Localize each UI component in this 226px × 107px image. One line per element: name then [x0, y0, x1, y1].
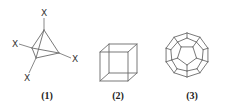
cube-figure	[100, 44, 137, 81]
mid-edge	[178, 38, 187, 42]
inner-edge	[177, 47, 181, 58]
outer-edge	[166, 37, 174, 48]
caption-2: (2)	[112, 90, 124, 102]
outer-edge	[200, 37, 208, 48]
spoke-edge	[196, 37, 200, 42]
tetrahedron-figure: X X X X	[12, 8, 78, 83]
outer-edge	[174, 33, 187, 37]
edge	[44, 30, 59, 53]
spoke-edge	[202, 60, 208, 62]
substituent-label-right: X	[72, 54, 78, 64]
edge	[128, 73, 137, 81]
mid-edge	[177, 69, 187, 71]
spoke-edge	[174, 69, 177, 73]
bond-right	[59, 53, 71, 58]
bond-bottom	[29, 58, 36, 73]
polyhedra-diagram: X X X X (1) (2) (3)	[0, 0, 226, 107]
inner-edge	[177, 58, 187, 65]
bond-left	[19, 44, 32, 48]
mid-edge	[171, 42, 178, 50]
caption-3: (3)	[186, 90, 198, 102]
spoke-edge	[166, 48, 171, 50]
edge	[32, 30, 44, 48]
edge	[36, 30, 44, 58]
inner-spoke	[197, 58, 203, 60]
outer-edge	[174, 73, 187, 77]
edge	[128, 44, 137, 52]
cube-front-face	[100, 52, 128, 81]
edge-back	[32, 48, 59, 53]
mid-edge	[172, 60, 177, 69]
inner-edge	[187, 58, 197, 65]
outer-edge	[166, 62, 174, 73]
edge	[100, 73, 109, 81]
spoke-edge	[174, 37, 178, 42]
mid-edge	[187, 69, 197, 71]
edge	[32, 48, 36, 58]
substituent-label-bottom: X	[24, 73, 30, 83]
inner-edge	[193, 47, 197, 58]
edge	[100, 44, 109, 52]
cube-back-face	[109, 44, 137, 73]
spoke-edge	[203, 48, 208, 50]
mid-edge	[202, 50, 203, 60]
spoke-edge	[166, 60, 172, 62]
inner-spoke	[193, 42, 197, 47]
mid-edge	[187, 38, 196, 42]
inner-spoke	[172, 58, 178, 60]
spoke-edge	[197, 69, 200, 73]
substituent-label-top: X	[41, 8, 47, 18]
inner-spoke	[178, 42, 182, 47]
substituent-label-left: X	[12, 39, 18, 49]
mid-edge	[171, 50, 172, 60]
outer-edge	[200, 62, 208, 73]
mid-edge	[197, 60, 202, 69]
mid-edge	[196, 42, 203, 50]
dodecahedron-figure	[166, 33, 208, 77]
outer-edge	[187, 73, 200, 77]
edge	[36, 53, 59, 58]
outer-edge	[187, 33, 200, 37]
caption-1: (1)	[41, 90, 53, 102]
